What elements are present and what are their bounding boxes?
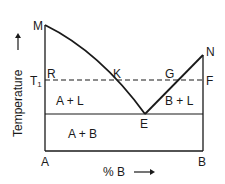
y-axis-arrowhead-icon	[15, 33, 21, 38]
point-g-label: G	[165, 67, 174, 81]
point-k-label: K	[113, 67, 121, 81]
point-e-label: E	[140, 117, 148, 131]
y-axis-label: Temperature	[11, 69, 25, 137]
t1-label: T1	[30, 74, 42, 89]
region-a-plus-b: A + B	[68, 127, 97, 141]
region-a-plus-l: A + L	[56, 94, 84, 108]
component-a-label: A	[41, 155, 49, 169]
phase-diagram: M N R K G F E T1 A + L B + L A + B A B %…	[0, 0, 225, 184]
point-n-label: N	[206, 45, 215, 59]
point-f-label: F	[206, 74, 213, 88]
point-m-label: M	[33, 19, 43, 33]
x-axis-arrowhead-icon	[150, 169, 155, 175]
region-b-plus-l: B + L	[165, 94, 194, 108]
x-axis-label: % B	[103, 165, 125, 179]
point-r-label: R	[47, 67, 56, 81]
component-b-label: B	[198, 155, 206, 169]
